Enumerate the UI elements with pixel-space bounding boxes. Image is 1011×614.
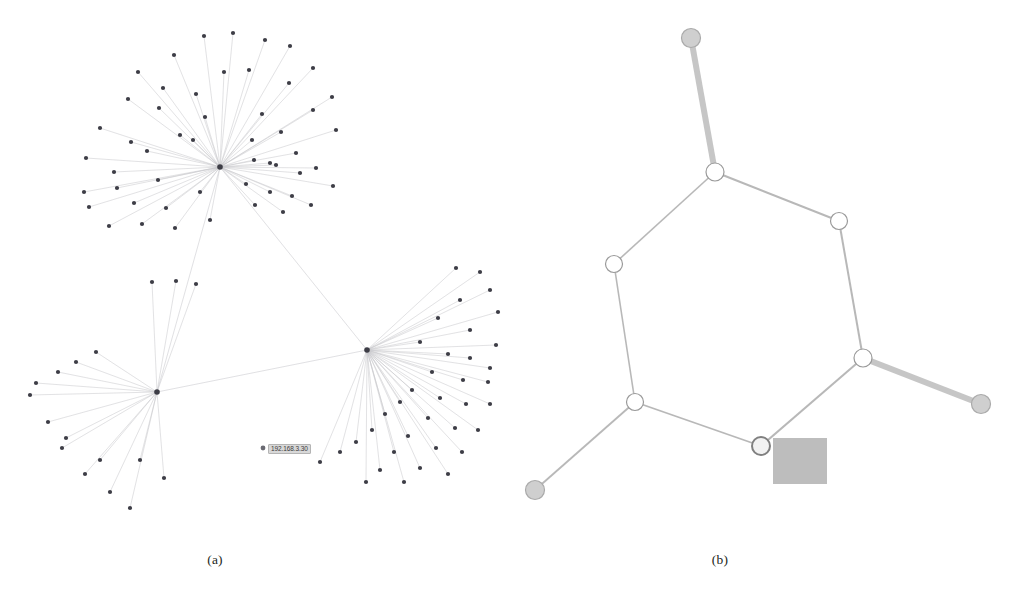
graph-hub-node[interactable]: [364, 347, 370, 353]
graph-node[interactable]: [87, 205, 91, 209]
graph-node[interactable]: [194, 92, 198, 96]
graph-node[interactable]: [464, 402, 468, 406]
ring-node[interactable]: [854, 349, 872, 367]
graph-node[interactable]: [454, 266, 458, 270]
tooltip-anchor-node[interactable]: [261, 446, 266, 451]
graph-node[interactable]: [208, 218, 212, 222]
ring-node[interactable]: [627, 394, 644, 411]
graph-node[interactable]: [476, 428, 480, 432]
graph-node[interactable]: [263, 38, 267, 42]
graph-node[interactable]: [488, 402, 492, 406]
graph-node[interactable]: [290, 194, 294, 198]
graph-node[interactable]: [178, 133, 182, 137]
graph-node[interactable]: [318, 460, 322, 464]
graph-node[interactable]: [260, 112, 264, 116]
node-ip-tooltip[interactable]: 192.168.3.30: [268, 444, 311, 454]
graph-node[interactable]: [46, 420, 50, 424]
graph-node[interactable]: [392, 450, 396, 454]
graph-node[interactable]: [194, 282, 198, 286]
graph-node[interactable]: [145, 149, 149, 153]
graph-node[interactable]: [309, 203, 313, 207]
graph-node[interactable]: [174, 279, 178, 283]
graph-node[interactable]: [311, 66, 315, 70]
graph-node[interactable]: [156, 178, 160, 182]
graph-node[interactable]: [438, 396, 442, 400]
graph-node[interactable]: [426, 416, 430, 420]
graph-node[interactable]: [98, 126, 102, 130]
graph-node[interactable]: [294, 151, 298, 155]
graph-node[interactable]: [279, 130, 283, 134]
graph-node[interactable]: [486, 380, 490, 384]
graph-node[interactable]: [281, 210, 285, 214]
graph-node[interactable]: [247, 68, 251, 72]
ring-leaf-node[interactable]: [682, 29, 701, 48]
graph-node[interactable]: [129, 140, 133, 144]
graph-node[interactable]: [28, 393, 32, 397]
graph-node[interactable]: [478, 270, 482, 274]
graph-hub-node[interactable]: [217, 164, 223, 170]
graph-node[interactable]: [82, 190, 86, 194]
graph-node[interactable]: [64, 436, 68, 440]
graph-node[interactable]: [173, 226, 177, 230]
graph-node[interactable]: [354, 440, 358, 444]
graph-node[interactable]: [138, 458, 142, 462]
ring-node[interactable]: [706, 163, 724, 181]
graph-node[interactable]: [161, 86, 165, 90]
graph-node[interactable]: [60, 446, 64, 450]
graph-node[interactable]: [231, 31, 235, 35]
graph-node[interactable]: [468, 356, 472, 360]
graph-node[interactable]: [157, 106, 161, 110]
graph-node[interactable]: [107, 224, 111, 228]
graph-node[interactable]: [222, 70, 226, 74]
graph-node[interactable]: [378, 468, 382, 472]
graph-node[interactable]: [334, 128, 338, 132]
ring-leaf-node[interactable]: [972, 395, 991, 414]
graph-node[interactable]: [461, 378, 465, 382]
graph-node[interactable]: [331, 184, 335, 188]
graph-node[interactable]: [203, 115, 207, 119]
graph-node[interactable]: [488, 288, 492, 292]
graph-node[interactable]: [402, 480, 406, 484]
graph-node[interactable]: [314, 166, 318, 170]
graph-node[interactable]: [250, 138, 254, 142]
graph-node[interactable]: [496, 310, 500, 314]
graph-node[interactable]: [364, 480, 368, 484]
graph-node[interactable]: [460, 450, 464, 454]
graph-node[interactable]: [202, 34, 206, 38]
graph-node[interactable]: [128, 506, 132, 510]
graph-node[interactable]: [172, 53, 176, 57]
graph-node[interactable]: [468, 328, 472, 332]
graph-node[interactable]: [406, 434, 410, 438]
graph-node[interactable]: [198, 190, 202, 194]
graph-node[interactable]: [418, 466, 422, 470]
graph-node[interactable]: [150, 280, 154, 284]
graph-node[interactable]: [383, 412, 387, 416]
graph-node[interactable]: [132, 201, 136, 205]
graph-node[interactable]: [268, 190, 272, 194]
graph-node[interactable]: [126, 97, 130, 101]
graph-node[interactable]: [34, 381, 38, 385]
graph-node[interactable]: [488, 366, 492, 370]
graph-node[interactable]: [115, 186, 119, 190]
graph-node[interactable]: [430, 370, 434, 374]
ring-node-selected[interactable]: [752, 437, 770, 455]
graph-node[interactable]: [136, 70, 140, 74]
graph-node[interactable]: [494, 343, 498, 347]
annotation-square[interactable]: [773, 438, 827, 484]
graph-node[interactable]: [410, 388, 414, 392]
graph-node[interactable]: [370, 428, 374, 432]
graph-node[interactable]: [164, 206, 168, 210]
graph-node[interactable]: [436, 316, 440, 320]
graph-node[interactable]: [330, 95, 334, 99]
graph-node[interactable]: [140, 222, 144, 226]
graph-node[interactable]: [84, 156, 88, 160]
graph-node[interactable]: [98, 458, 102, 462]
graph-node[interactable]: [287, 81, 291, 85]
graph-node[interactable]: [338, 450, 342, 454]
graph-node[interactable]: [252, 158, 256, 162]
graph-node[interactable]: [112, 170, 116, 174]
graph-node[interactable]: [398, 400, 402, 404]
graph-hub-node[interactable]: [154, 389, 160, 395]
graph-node[interactable]: [74, 360, 78, 364]
ring-leaf-node[interactable]: [526, 481, 545, 500]
